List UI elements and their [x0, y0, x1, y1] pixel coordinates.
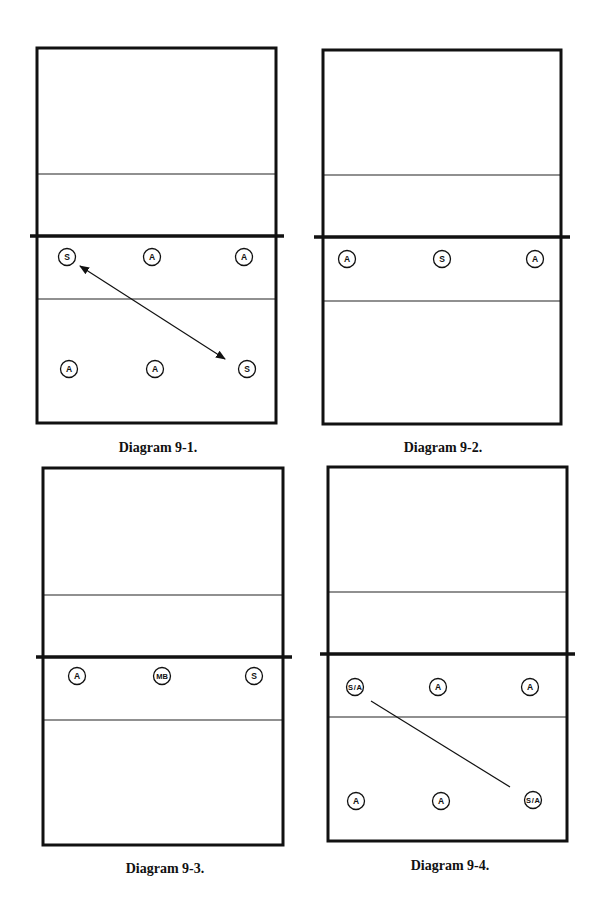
court-diagram-4: S/AAAAAS/A [320, 467, 575, 841]
player-label: A [435, 682, 441, 692]
player-label: S [251, 671, 257, 681]
diagrams-canvas: SAAAASASAAMBSS/AAAAAS/A [0, 0, 603, 898]
player-marker: A [348, 793, 365, 810]
player-marker: A [430, 679, 447, 696]
player-marker: S [246, 668, 263, 685]
switch-arrow [80, 266, 225, 359]
player-label: S/A [526, 796, 541, 805]
switch-line [371, 701, 510, 787]
player-marker: S [434, 251, 451, 268]
player-label: A [344, 254, 350, 264]
player-label: A [532, 254, 538, 264]
player-marker: S [59, 249, 76, 266]
player-marker: S/A [347, 679, 364, 696]
player-marker: A [433, 793, 450, 810]
diagram-caption: Diagram 9-3. [126, 861, 205, 877]
court-diagram-3: AMBS [36, 468, 292, 845]
diagram-caption: Diagram 9-1. [119, 440, 198, 456]
player-label: A [527, 682, 533, 692]
player-marker: S [239, 361, 256, 378]
player-marker: A [522, 679, 539, 696]
player-marker: S/A [525, 792, 542, 809]
player-label: S [439, 254, 445, 264]
player-label: A [438, 796, 444, 806]
player-marker: A [147, 361, 164, 378]
court-diagram-1: SAAAAS [30, 48, 284, 423]
diagram-caption: Diagram 9-4. [411, 858, 490, 874]
player-label: S [244, 364, 250, 374]
player-marker: A [527, 251, 544, 268]
player-marker: A [61, 361, 78, 378]
player-label: MB [156, 672, 168, 681]
player-marker: A [236, 249, 253, 266]
player-marker: A [339, 251, 356, 268]
player-label: A [241, 252, 247, 262]
diagram-caption: Diagram 9-2. [404, 440, 483, 456]
player-label: A [66, 364, 72, 374]
player-label: A [353, 796, 359, 806]
player-label: A [152, 364, 158, 374]
court-diagram-2: ASA [314, 50, 570, 424]
player-label: S [64, 252, 70, 262]
player-label: A [74, 671, 80, 681]
player-marker: A [69, 668, 86, 685]
player-label: S/A [348, 683, 363, 692]
player-marker: A [144, 249, 161, 266]
player-label: A [149, 252, 155, 262]
player-marker: MB [154, 668, 171, 685]
